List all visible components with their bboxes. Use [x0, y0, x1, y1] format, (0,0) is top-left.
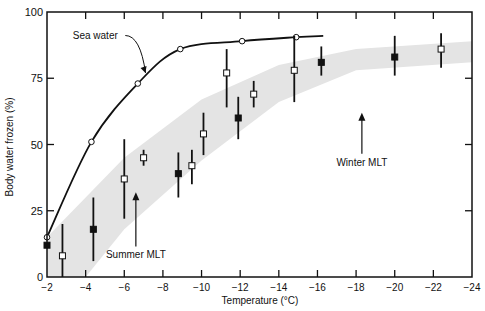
open-square-marker: [291, 67, 297, 73]
x-tick-label: −18: [348, 282, 365, 293]
annotation-label: Summer MLT: [106, 249, 166, 260]
sea-water-point: [239, 38, 245, 44]
x-tick-label: −8: [157, 282, 169, 293]
y-tick-label: 100: [25, 6, 43, 18]
annotation-label: Winter MLT: [336, 157, 387, 168]
y-axis-label: Body water frozen (%): [4, 98, 15, 197]
filled-square-marker: [318, 59, 324, 65]
x-tick-label: −14: [270, 282, 287, 293]
x-tick-label: −10: [193, 282, 210, 293]
filled-square-marker: [392, 54, 398, 60]
x-tick-label: −6: [119, 282, 131, 293]
open-square-marker: [224, 70, 230, 76]
sea-water-point: [177, 46, 183, 52]
y-tick-label: 75: [31, 72, 43, 84]
x-tick-label: −12: [232, 282, 249, 293]
chart: −2−4−6−8−10−12−14−16−18−20−22−2402550751…: [0, 0, 485, 311]
y-tick-label: 50: [31, 139, 43, 151]
sea-water-point: [135, 81, 141, 87]
x-tick-label: −22: [425, 282, 442, 293]
x-tick-label: −20: [386, 282, 403, 293]
y-tick-label: 0: [37, 271, 43, 283]
open-square-marker: [438, 46, 444, 52]
shaded-band-area: [47, 41, 472, 277]
filled-square-marker: [235, 115, 241, 121]
x-tick-label: −4: [80, 282, 92, 293]
open-square-marker: [121, 176, 127, 182]
x-tick-label: −16: [309, 282, 326, 293]
x-tick-label: −24: [464, 282, 481, 293]
x-tick-label: −2: [41, 282, 53, 293]
open-square-marker: [141, 155, 147, 161]
arrowhead-icon: [358, 113, 365, 121]
sea-water-point: [89, 139, 95, 145]
annotation-label: Sea water: [73, 30, 119, 41]
open-square-marker: [59, 253, 65, 259]
x-axis-label: Temperature (°C): [222, 295, 299, 306]
filled-square-marker: [175, 171, 181, 177]
filled-square-marker: [90, 226, 96, 232]
y-tick-label: 25: [31, 205, 43, 217]
open-square-marker: [200, 131, 206, 137]
arrowhead-icon: [141, 66, 147, 73]
open-square-marker: [251, 91, 257, 97]
shaded-band: [47, 41, 472, 277]
open-square-marker: [189, 163, 195, 169]
